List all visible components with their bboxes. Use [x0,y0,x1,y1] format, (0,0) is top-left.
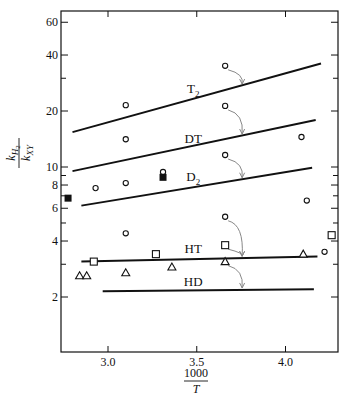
open-triangle-marker [83,272,91,279]
open-circle-marker [304,198,309,203]
open-triangle-marker [76,272,84,279]
series-label-d2: D2 [186,169,200,187]
open-circle-marker [299,134,304,139]
fit-line-ht [81,257,317,262]
chart: 604020108642 3.03.54.0 T2DTD2HTHD 1000 T… [0,0,348,403]
y-tick-label: 6 [52,201,58,215]
open-square-marker [222,242,229,249]
filled-square-marker [160,174,167,181]
y-axis-title: kH2 kXY [4,138,35,168]
y-tick-label: 8 [52,178,58,192]
series-label-hd: HD [184,274,203,289]
open-square-marker [152,251,159,258]
x-axis-ticks: 3.03.54.0 [101,11,294,369]
open-circle-marker [123,180,128,185]
open-triangle-marker [299,250,307,257]
y-tick-label: 4 [52,234,58,248]
open-circle-marker [123,231,128,236]
y-tick-label: 10 [46,160,58,174]
x-axis-title-denominator: T [193,382,201,396]
open-circle-marker [93,186,98,191]
x-tick-label: 3.0 [101,355,116,369]
y-tick-label: 20 [46,104,58,118]
x-tick-label: 4.0 [278,355,293,369]
x-axis-title-numerator: 1000 [184,366,208,380]
y-tick-label: 40 [46,48,58,62]
open-circle-marker [223,63,228,68]
open-circle-marker [160,169,165,174]
open-triangle-marker [122,269,130,276]
open-square-marker [90,258,97,265]
y-tick-label: 2 [52,290,58,304]
open-circle-marker [223,214,228,219]
open-circle-marker [223,103,228,108]
curved-arrow [228,70,242,84]
y-tick-label: 60 [46,15,58,29]
open-circle-marker [223,152,228,157]
open-circle-marker [123,137,128,142]
open-circle-marker [322,249,327,254]
series-label-ht: HT [185,241,202,256]
fit-line-hd [103,289,314,291]
open-circle-marker [123,103,128,108]
open-triangle-marker [168,263,176,270]
series-label-t2: T2 [187,81,199,99]
open-square-marker [328,232,335,239]
x-axis-title: 1000 T [184,366,208,396]
series-label-dt: DT [185,131,202,146]
filled-square-marker [65,195,72,202]
